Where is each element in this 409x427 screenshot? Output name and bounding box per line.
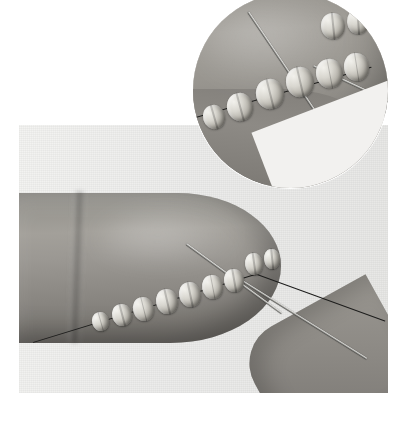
fingertip-highlight bbox=[97, 211, 247, 269]
circular-inset-closeup bbox=[193, 0, 388, 188]
figure-stage bbox=[0, 0, 409, 427]
